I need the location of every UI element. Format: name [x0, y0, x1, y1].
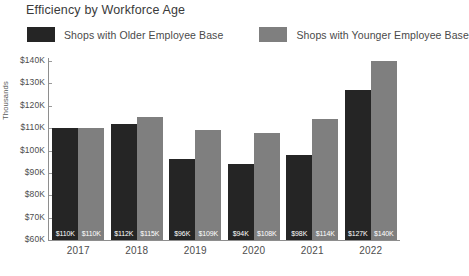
bar-value-label: $112K	[114, 230, 133, 237]
bar-value-label: $140K	[374, 230, 394, 237]
y-tick-label: $100K	[20, 145, 45, 155]
bar-older[interactable]: $127K	[345, 90, 371, 240]
y-tick-label: $120K	[20, 100, 45, 110]
bar-value-label: $108K	[257, 230, 277, 237]
bar-younger[interactable]: $110K	[78, 128, 104, 240]
x-axis-label: 2017	[67, 245, 90, 256]
legend-label-older: Shops with Older Employee Base	[64, 29, 223, 41]
y-tick-label: $90K	[25, 167, 45, 177]
x-axis-label: 2018	[125, 245, 148, 256]
bar-value-label: $127K	[348, 230, 368, 237]
bar-older[interactable]: $112K	[111, 124, 137, 240]
bar-value-label: $98K	[291, 230, 307, 237]
legend-label-younger: Shops with Younger Employee Base	[296, 29, 468, 41]
bar-group: $110K$110K	[49, 61, 108, 240]
y-axis-title: Thousands	[1, 81, 10, 120]
y-tick-label: $130K	[20, 77, 45, 87]
bar-younger[interactable]: $115K	[137, 117, 163, 240]
bar-value-label: $110K	[82, 230, 101, 237]
bar-value-label: $96K	[174, 230, 190, 237]
x-axis-label: 2020	[242, 245, 265, 256]
x-axis-label: 2022	[359, 245, 382, 256]
plot-area: $110K$110K$112K$115K$96K$109K$94K$108K$9…	[49, 61, 400, 240]
bar-value-label: $115K	[140, 230, 159, 237]
bar-younger[interactable]: $109K	[195, 130, 221, 240]
legend-entry-younger[interactable]: Shops with Younger Employee Base	[259, 27, 468, 42]
legend-swatch-younger	[259, 27, 287, 42]
bar-younger[interactable]: $108K	[254, 133, 280, 240]
y-tick-label: $70K	[25, 212, 45, 222]
chart-legend: Shops with Older Employee Base Shops wit…	[27, 27, 469, 42]
bar-group: $127K$140K	[342, 61, 401, 240]
bar-group: $96K$109K	[166, 61, 225, 240]
x-axis-label: 2021	[301, 245, 324, 256]
y-tick-label: $60K	[25, 234, 45, 244]
bar-group: $112K$115K	[108, 61, 167, 240]
x-axis-line	[48, 240, 400, 241]
bar-older[interactable]: $110K	[52, 128, 78, 240]
x-axis-labels: 201720182019202020212022	[49, 245, 400, 265]
y-tick-label: $140K	[20, 55, 45, 65]
bar-older[interactable]: $98K	[286, 155, 312, 240]
bar-value-label: $110K	[56, 230, 75, 237]
legend-entry-older[interactable]: Shops with Older Employee Base	[27, 27, 223, 42]
bar-group: $94K$108K	[225, 61, 284, 240]
bar-value-label: $114K	[316, 230, 335, 237]
bar-value-label: $109K	[198, 230, 218, 237]
y-tick-label: $80K	[25, 189, 45, 199]
bar-group: $98K$114K	[283, 61, 342, 240]
bar-younger[interactable]: $114K	[312, 119, 338, 240]
bar-value-label: $94K	[233, 230, 249, 237]
x-axis-label: 2019	[184, 245, 207, 256]
bar-older[interactable]: $94K	[228, 164, 254, 240]
bar-younger[interactable]: $140K	[371, 61, 397, 240]
chart-title: Efficiency by Workforce Age	[26, 3, 185, 17]
y-tick-label: $110K	[21, 122, 45, 132]
legend-swatch-older	[27, 27, 55, 42]
bar-older[interactable]: $96K	[169, 159, 195, 240]
